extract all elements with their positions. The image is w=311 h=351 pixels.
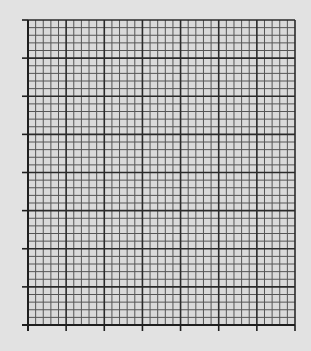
empty-grid-chart <box>0 0 311 351</box>
